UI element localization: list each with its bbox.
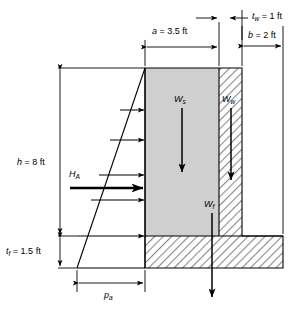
dimension-label-a: a = 3.5 ft xyxy=(152,27,187,36)
force-label-Ws: Ws xyxy=(174,95,186,104)
dimension-tf xyxy=(58,238,77,268)
pressure-label-pa: pa xyxy=(104,291,113,300)
footing xyxy=(145,236,283,268)
force-label-Ww: Ww xyxy=(222,95,235,104)
retaining-wall-figure xyxy=(0,0,307,311)
dimension-pa xyxy=(77,270,145,292)
force-label-Wf: Wf xyxy=(204,200,214,209)
dimension-h xyxy=(58,68,145,236)
pressure-triangle xyxy=(77,68,145,268)
dimension-tw xyxy=(196,10,248,40)
dimension-label-tf: tf = 1.5 ft xyxy=(6,247,41,256)
dimension-b xyxy=(242,26,283,234)
diagram-canvas: a = 3.5 ft tw = 1 ft b = 2 ft h = 8 ft t… xyxy=(0,0,307,311)
dimension-label-tw: tw = 1 ft xyxy=(252,12,282,21)
dimension-label-h: h = 8 ft xyxy=(17,158,45,167)
dimension-label-b: b = 2 ft xyxy=(248,31,276,40)
force-label-HA: HA xyxy=(69,170,80,179)
pressure-arrows xyxy=(78,110,144,236)
